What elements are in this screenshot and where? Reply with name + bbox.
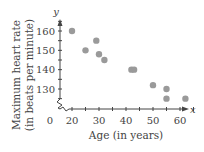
x-tick-label: 30 xyxy=(93,115,106,126)
axes: 2030405060130140150160 xyxy=(36,19,194,126)
y-tick-label: 160 xyxy=(36,26,55,37)
origin-label: 0 xyxy=(47,115,53,126)
data-point xyxy=(96,51,102,57)
data-point xyxy=(69,28,75,34)
data-point xyxy=(131,66,137,72)
data-point xyxy=(101,57,107,63)
x-tick-label: 20 xyxy=(66,115,79,126)
x-tick-label: 60 xyxy=(174,115,187,126)
x-axis-arrow xyxy=(182,107,189,112)
y-axis-letter: y xyxy=(52,6,59,17)
y-axis-arrow xyxy=(58,19,63,26)
y-axis-label-line2: (in beats per minute) xyxy=(23,19,35,131)
y-tick-label: 140 xyxy=(36,64,55,75)
x-tick-label: 40 xyxy=(120,115,133,126)
y-tick-label: 150 xyxy=(36,45,55,56)
scatter-chart: 2030405060130140150160 Maximum heart rat… xyxy=(0,0,204,152)
x-axis-label: Age (in years) xyxy=(88,129,163,141)
y-axis-label-line1: Maximum heart rate xyxy=(10,20,22,130)
x-tick-label: 50 xyxy=(147,115,160,126)
data-point xyxy=(163,95,169,101)
data-point xyxy=(82,47,88,53)
y-axis-break xyxy=(57,99,62,109)
y-tick-label: 130 xyxy=(36,84,55,95)
data-point xyxy=(163,86,169,92)
data-point xyxy=(182,95,188,101)
x-axis-break xyxy=(60,107,69,111)
data-point xyxy=(93,37,99,43)
data-points xyxy=(69,28,189,102)
x-axis-letter: x xyxy=(190,104,196,115)
data-point xyxy=(150,82,156,88)
